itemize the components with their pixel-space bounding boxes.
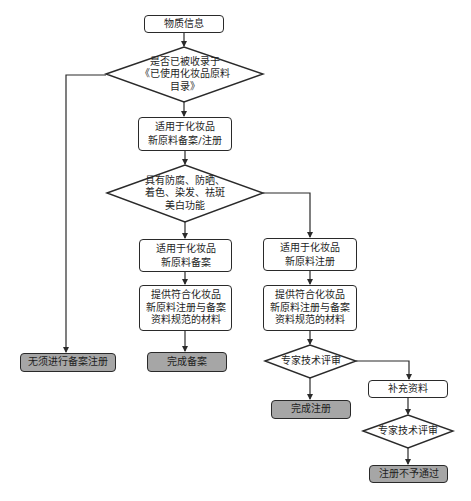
- node-label: 提供符合化妆品: [275, 289, 345, 302]
- node-no-need: 无须进行备案注册: [20, 353, 116, 372]
- node-label: 物质信息: [164, 18, 204, 31]
- decision-in-catalog: 是否已被收录于 《已使用化妆品原料 目录》: [106, 47, 263, 102]
- decision-function: 具有防腐、防晒、 着色、染发、祛斑 美白功能: [107, 165, 263, 222]
- decision-label: 专家技术评审: [378, 425, 438, 438]
- edge-review-to-supplement: [356, 361, 409, 379]
- node-materials-register: 提供符合化妆品 新原料注册与备案 资料规范的材料: [263, 285, 357, 331]
- node-label: 资料规范的材料: [151, 314, 221, 327]
- node-label: 完成注册: [291, 403, 331, 416]
- decision-label: 专家技术评审: [281, 355, 341, 368]
- node-record-complete: 完成备案: [147, 352, 227, 372]
- node-label: 无须进行备案注册: [28, 356, 108, 369]
- node-register-complete: 完成注册: [271, 400, 351, 419]
- decision-label: 是否已被收录于: [150, 56, 220, 69]
- node-label: 补充资料: [388, 383, 428, 396]
- edge-catalog-to-no-need: [66, 75, 106, 352]
- decision-label: 美白功能: [165, 200, 205, 213]
- node-applicable-record: 适用于化妆品 新原料备案: [139, 239, 232, 272]
- decision-label: 目录》: [170, 81, 200, 94]
- node-label: 新原料注册与备案: [146, 302, 226, 315]
- node-label: 适用于化妆品: [155, 120, 215, 134]
- decision-label: 《已使用化妆品原料: [140, 68, 230, 81]
- decision-label: 具有防腐、防晒、: [145, 175, 225, 188]
- decision-expert-review-2: 专家技术评审: [363, 415, 453, 448]
- node-label: 注册不予通过: [379, 468, 439, 481]
- node-label: 适用于化妆品: [156, 242, 216, 256]
- edge-function-to-register: [263, 193, 310, 237]
- node-label: 完成备案: [167, 356, 207, 369]
- node-register-rejected: 注册不予通过: [369, 465, 448, 483]
- node-materials-record: 提供符合化妆品 新原料注册与备案 资料规范的材料: [139, 285, 232, 331]
- node-label: 新原料注册与备案: [270, 302, 350, 315]
- node-applicable-record-register: 适用于化妆品 新原料备案/注册: [138, 117, 232, 151]
- node-applicable-register: 适用于化妆品 新原料注册: [263, 238, 357, 271]
- node-substance-info: 物质信息: [144, 15, 224, 33]
- node-label: 资料规范的材料: [275, 314, 345, 327]
- node-label: 新原料备案/注册: [148, 134, 221, 148]
- node-label: 新原料备案: [161, 256, 211, 270]
- node-supplement: 补充资料: [368, 380, 448, 398]
- decision-label: 着色、染发、祛斑: [145, 187, 225, 200]
- decision-expert-review-1: 专家技术评审: [265, 345, 356, 378]
- node-label: 提供符合化妆品: [151, 289, 221, 302]
- node-label: 适用于化妆品: [280, 241, 340, 255]
- node-label: 新原料注册: [285, 255, 335, 269]
- flowchart-canvas: 物质信息 适用于化妆品 新原料备案/注册 适用于化妆品 新原料备案 适用于化妆品…: [0, 0, 471, 501]
